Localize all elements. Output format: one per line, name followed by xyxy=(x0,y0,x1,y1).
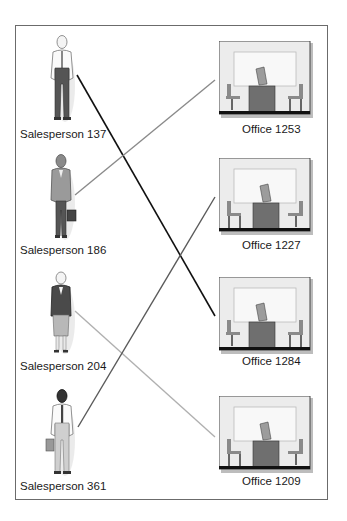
office-1227-label: Office 1227 xyxy=(242,239,301,251)
salesperson-137-icon xyxy=(42,34,82,126)
salesperson-204-label: Salesperson 204 xyxy=(20,360,106,372)
salesperson-137-label: Salesperson 137 xyxy=(20,128,106,140)
salesperson-361-label: Salesperson 361 xyxy=(20,480,106,492)
salesperson-186-label: Salesperson 186 xyxy=(20,244,106,256)
office-1209-icon xyxy=(219,396,313,473)
salesperson-186-icon xyxy=(42,152,82,244)
office-1253-icon xyxy=(219,41,313,118)
office-1253-label: Office 1253 xyxy=(242,123,301,135)
salesperson-204-icon xyxy=(42,270,82,362)
office-1209-label: Office 1209 xyxy=(242,475,301,487)
office-1284-icon xyxy=(219,277,313,354)
salesperson-361-icon xyxy=(42,388,82,480)
office-1284-label: Office 1284 xyxy=(242,355,301,367)
office-1227-icon xyxy=(219,158,313,235)
